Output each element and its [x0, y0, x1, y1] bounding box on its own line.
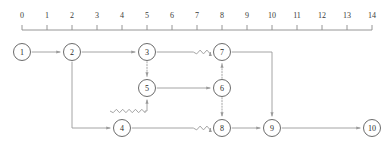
axis-tick-label: 11	[293, 11, 301, 20]
time-axis: 01234567891011121314	[20, 11, 376, 30]
node-label-1: 1	[20, 48, 24, 57]
node-label-3: 3	[145, 48, 149, 57]
axis-tick-label: 6	[170, 11, 174, 20]
node-3[interactable]: 3	[139, 44, 156, 61]
axis-tick-label: 0	[20, 11, 24, 20]
axis-tick-label: 13	[343, 11, 351, 20]
node-8[interactable]: 8	[214, 120, 231, 137]
network-canvas: 01234567891011121314 12345678910	[0, 0, 391, 157]
node-2[interactable]: 2	[64, 44, 81, 61]
edge-4-to-5-wave	[110, 109, 145, 112]
axis-tick-label: 5	[145, 11, 149, 20]
node-label-6: 6	[220, 84, 224, 93]
edge-7-to-9	[232, 52, 272, 116]
axis-tick-label: 8	[220, 11, 224, 20]
node-label-5: 5	[145, 84, 149, 93]
axis-tick-label: 14	[368, 11, 376, 20]
axis-tick-label: 12	[318, 11, 326, 20]
node-label-2: 2	[70, 48, 74, 57]
node-layer: 12345678910	[14, 44, 381, 137]
edge-4-to-8-wave	[193, 126, 210, 130]
axis-tick-label: 10	[268, 11, 276, 20]
edge-2-to-4	[72, 62, 110, 128]
axis-tick-label: 2	[70, 11, 74, 20]
node-label-10: 10	[368, 124, 376, 133]
axis-tick-label: 4	[120, 11, 124, 20]
node-label-9: 9	[270, 124, 274, 133]
activity-network-diagram: 01234567891011121314 12345678910	[0, 0, 391, 157]
node-label-8: 8	[220, 124, 224, 133]
edge-layer	[32, 50, 361, 130]
node-label-7: 7	[220, 48, 224, 57]
edge-3-to-7-wave	[193, 50, 210, 54]
node-label-4: 4	[120, 124, 124, 133]
node-1[interactable]: 1	[14, 44, 31, 61]
axis-tick-label: 7	[195, 11, 199, 20]
node-10[interactable]: 10	[364, 120, 381, 137]
axis-tick-label: 3	[95, 11, 99, 20]
node-9[interactable]: 9	[264, 120, 281, 137]
node-5[interactable]: 5	[139, 80, 156, 97]
edge-4-to-5-riser	[145, 100, 147, 111]
axis-tick-label: 1	[45, 11, 49, 20]
node-4[interactable]: 4	[114, 120, 131, 137]
node-6[interactable]: 6	[214, 80, 231, 97]
axis-tick-label: 9	[245, 11, 249, 20]
node-7[interactable]: 7	[214, 44, 231, 61]
